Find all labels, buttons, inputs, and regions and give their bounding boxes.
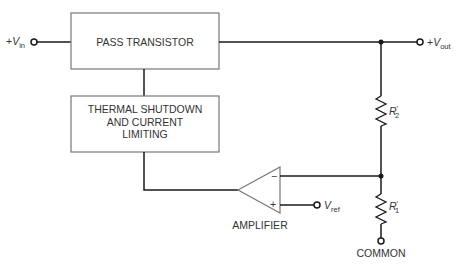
vout-terminal [417, 39, 423, 45]
pass-transistor-label: PASS TRANSISTOR [96, 36, 194, 48]
common-terminal [378, 238, 384, 244]
r2-resistor-icon [376, 96, 386, 126]
noninverting-pin-label: + [270, 198, 276, 210]
r1-resistor-icon [376, 194, 386, 224]
vref-terminal [314, 202, 320, 208]
vout-label: +Vout [427, 36, 451, 51]
vin-terminal [31, 39, 37, 45]
vin-label: +Vin [6, 35, 25, 50]
thermal-amp-wire [144, 152, 238, 190]
amplifier-label: AMPLIFIER [232, 219, 288, 231]
inverting-pin-label: − [271, 170, 277, 182]
r1-label: R′1 [389, 199, 399, 215]
thermal-label-line2: AND CURRENT [107, 116, 184, 128]
thermal-label-line1: THERMAL SHUTDOWN [88, 103, 203, 115]
thermal-label-line3: LIMITING [122, 128, 168, 140]
vref-label: Vref [324, 199, 341, 214]
r2-label: R′2 [389, 104, 399, 120]
regulator-diagram: +Vin PASS TRANSISTOR +Vout THERMAL SHUTD… [0, 0, 460, 264]
common-label: COMMON [357, 247, 406, 259]
